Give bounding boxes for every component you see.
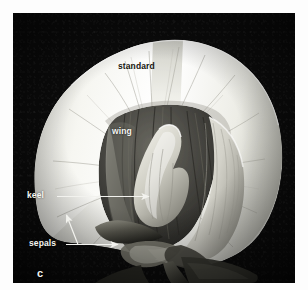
label-sepals: sepals [29,239,56,248]
panel-letter: c [37,267,43,279]
label-wing: wing [112,127,132,136]
label-standard: standard [118,62,155,71]
figure-root: c standard wing keel sepals [0,0,308,290]
label-keel: keel [27,191,44,200]
